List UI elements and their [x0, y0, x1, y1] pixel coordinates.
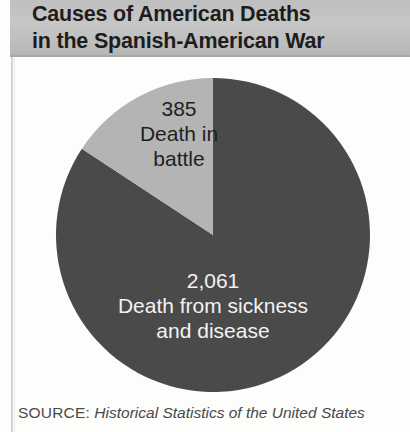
- pie-chart-figure: Causes of American Deaths in the Spanish…: [0, 0, 410, 432]
- source-label: SOURCE:: [18, 404, 90, 421]
- source-note: SOURCE: Historical Statistics of the Uni…: [18, 404, 365, 422]
- pie-chart-area: 385 Death in battle 2,061 Death from sic…: [0, 0, 410, 432]
- pie-slice-label-death-from-sickness: 2,061 Death from sickness and disease: [82, 268, 344, 343]
- source-citation: Historical Statistics of the United Stat…: [94, 404, 365, 421]
- pie-slice-label-death-in-battle: 385 Death in battle: [104, 96, 254, 171]
- pie-chart-svg: [0, 0, 410, 432]
